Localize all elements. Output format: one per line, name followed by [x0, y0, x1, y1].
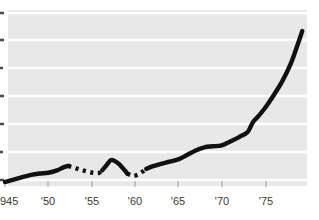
plot-area-background: [8, 10, 307, 186]
x-tick-label-1955: '55: [85, 195, 99, 207]
x-tick-label-1950: '50: [41, 195, 55, 207]
chart-root: 945 '50 '55 '60 '65 '70 '75: [0, 0, 319, 220]
line-chart: 945 '50 '55 '60 '65 '70 '75: [0, 0, 319, 220]
x-tick-label-1965: '65: [171, 195, 185, 207]
x-tick-label-1945: 945: [0, 195, 18, 207]
x-tick-label-1970: '70: [215, 195, 229, 207]
x-tick-label-1960: '60: [128, 195, 142, 207]
x-tick-label-1975: '75: [259, 195, 273, 207]
